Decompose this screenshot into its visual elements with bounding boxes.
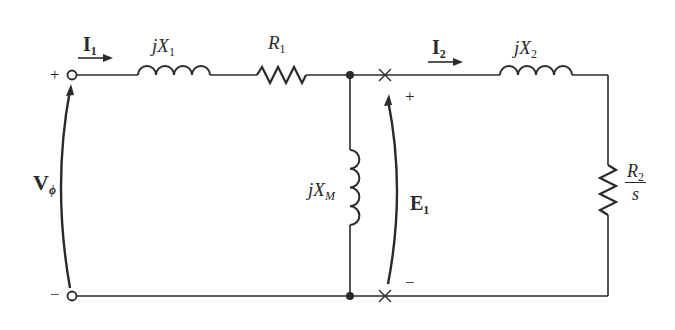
label-vphi: Vϕ	[33, 172, 56, 194]
inductor-jx2-icon	[500, 66, 572, 75]
resistor-r2s-icon	[600, 165, 616, 215]
label-r2-over-s: R2 s	[625, 162, 646, 203]
inductor-jxm-icon	[350, 150, 359, 225]
arrowhead-e1-icon	[384, 94, 392, 106]
voltage-e1-arc	[388, 100, 397, 284]
label-jxm: jXM	[308, 180, 335, 199]
terminal-bottom-icon	[68, 292, 77, 301]
label-jx1: jX1	[152, 36, 175, 55]
circuit-diagram	[0, 0, 675, 330]
inductor-jx1-icon	[138, 66, 210, 75]
minus-input-sign: −	[50, 286, 60, 303]
arrowhead-vphi-icon	[66, 84, 74, 96]
label-i2: I2	[432, 37, 446, 57]
plus-e1-sign: +	[405, 88, 415, 105]
terminal-top-icon	[68, 71, 77, 80]
resistor-r1-icon	[257, 67, 306, 83]
label-jx2: jX2	[514, 38, 537, 57]
label-r1: R1	[268, 33, 286, 52]
arrowhead-i1-icon	[103, 54, 113, 62]
arrowhead-i2-icon	[453, 58, 463, 66]
node-bottom-icon	[346, 292, 354, 300]
minus-e1-sign: −	[405, 274, 415, 291]
node-top-icon	[346, 71, 354, 79]
label-e1: E1	[410, 193, 429, 213]
voltage-vphi-arc	[61, 90, 70, 288]
label-i1: I1	[83, 34, 97, 54]
plus-input-sign: +	[50, 66, 60, 83]
